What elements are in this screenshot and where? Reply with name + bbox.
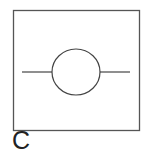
frame-box [14, 11, 140, 131]
figure-label: C [12, 128, 30, 153]
circle-symbol-icon [52, 49, 100, 95]
